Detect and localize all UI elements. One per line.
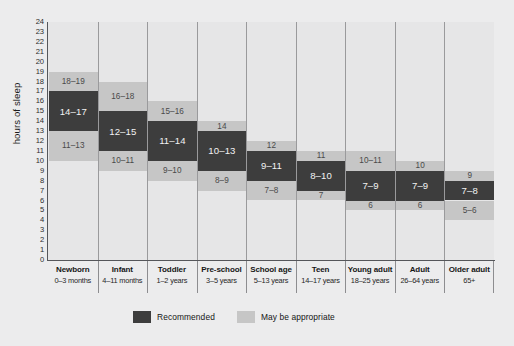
category-name: Infant [98,264,148,275]
bar-segment-upper-maybe: 15–16 [148,101,197,121]
category-label-pre-school: Pre-school3–5 years [197,261,247,293]
category-name: Toddler [147,264,197,275]
bar-segment-recommended: 10–13 [198,131,247,171]
category-divider [395,261,396,293]
y-axis-tick-labels: 2423222120191817161514131211109876543210 [24,22,44,260]
bar-segment-recommended: 7–9 [346,171,395,201]
y-axis-title: hours of sleep [11,54,22,174]
category-age-range: 1–2 years [147,275,197,286]
y-axis-tick-22: 22 [36,38,44,46]
bar-segment-recommended: 14–17 [49,91,98,131]
bar-segment-recommended: 7–8 [445,181,494,201]
bar-column: 7–89–1112 [246,22,296,260]
bar-segment-label: 18–19 [62,77,85,86]
legend-swatch-recommended [133,311,151,323]
legend-label-maybe: May be appropriate [261,312,335,322]
category-axis-end-divider [493,261,494,293]
category-divider [345,261,346,293]
legend-item-recommended: Recommended [133,311,215,323]
category-label-adult: Adult26–64 years [395,261,445,293]
y-axis-tick-5: 5 [40,207,44,215]
category-age-range: 5–13 years [246,275,296,286]
column-divider [345,22,346,260]
bar-column: 5–67–89 [444,22,494,260]
bar-segment-lower-maybe: 7–8 [247,181,296,201]
y-axis-tick-17: 17 [36,88,44,96]
bar-segment-label: 15–16 [161,107,184,116]
category-age-range: 0–3 months [48,275,98,286]
bar-segment-label: 10 [415,161,424,170]
category-label-school-age: School age5–13 years [246,261,296,293]
column-divider [296,22,297,260]
column-divider [395,22,396,260]
bar-segment-label: 8–9 [215,176,229,185]
bar-segment-upper-maybe: 9 [445,171,494,181]
bar-segment-label: 8–10 [310,170,332,181]
bar-segment-label: 9 [467,171,472,180]
category-name: Newborn [48,264,98,275]
bar-segment-label: 6 [418,201,423,210]
bar-segment-lower-maybe: 6 [396,201,445,211]
category-age-range: 18–25 years [345,275,395,286]
bar-segment-label: 11–13 [62,141,85,150]
y-axis-tick-0: 0 [40,256,44,264]
bar-segment-label: 11–14 [159,135,185,146]
legend-label-recommended: Recommended [157,312,215,322]
y-axis-tick-14: 14 [36,117,44,125]
bar-segment-upper-maybe: 12 [247,141,296,151]
bar-segment-label: 10–11 [111,156,134,165]
category-age-range: 4–11 months [98,275,148,286]
y-axis-tick-9: 9 [40,167,44,175]
category-divider [246,261,247,293]
y-axis-tick-13: 13 [36,127,44,135]
y-axis-tick-8: 8 [40,177,44,185]
y-axis-tick-11: 11 [36,147,44,155]
bar-segment-lower-maybe: 9–10 [148,161,197,181]
category-name: Young adult [345,264,395,275]
bar-segment-recommended: 11–14 [148,121,197,161]
bar-segment-upper-maybe: 10–11 [346,151,395,171]
category-label-older-adult: Older adult65+ [444,261,494,293]
y-axis-tick-23: 23 [36,28,44,36]
bar-segment-label: 14 [217,122,226,131]
category-name: Pre-school [197,264,247,275]
column-divider [444,22,445,260]
bar-segment-label: 7–8 [462,185,478,196]
bar-segment-recommended: 7–9 [396,171,445,201]
bar-segment-lower-maybe: 11–13 [49,131,98,161]
y-axis-tick-1: 1 [40,246,44,254]
bar-segment-upper-maybe: 14 [198,121,247,131]
y-axis-tick-19: 19 [36,68,44,76]
legend-swatch-maybe [237,311,255,323]
y-axis-tick-18: 18 [36,78,44,86]
bar-segment-upper-maybe: 18–19 [49,72,98,92]
bar-column: 9–1011–1415–16 [147,22,197,260]
category-label-toddler: Toddler1–2 years [147,261,197,293]
category-age-range: 14–17 years [296,275,346,286]
bar-segment-lower-maybe: 6 [346,201,395,211]
bar-segment-label: 7–9 [362,180,378,191]
category-divider [444,261,445,293]
bar-segment-lower-maybe: 7 [297,191,346,201]
bar-segment-label: 12 [267,141,276,150]
bar-segment-upper-maybe: 10 [396,161,445,171]
bar-segment-label: 11 [317,151,326,160]
bar-segment-recommended: 12–15 [99,111,148,151]
category-divider [296,261,297,293]
bar-segment-recommended: 9–11 [247,151,296,181]
plot-area: 11–1314–1718–1910–1112–1516–189–1011–141… [48,22,494,260]
category-label-infant: Infant4–11 months [98,261,148,293]
bar-segment-recommended: 8–10 [297,161,346,191]
y-axis-tick-15: 15 [36,107,44,115]
bar-segment-label: 6 [368,201,373,210]
bar-column: 78–1011 [296,22,346,260]
bar-segment-label: 9–10 [163,166,182,175]
bar-column: 67–910–11 [345,22,395,260]
category-label-teen: Teen14–17 years [296,261,346,293]
category-name: Adult [395,264,445,275]
category-label-young-adult: Young adult18–25 years [345,261,395,293]
bar-segment-label: 10–13 [208,145,235,156]
category-age-range: 3–5 years [197,275,247,286]
bar-segment-label: 10–11 [359,156,382,165]
y-axis-tick-12: 12 [36,137,44,145]
